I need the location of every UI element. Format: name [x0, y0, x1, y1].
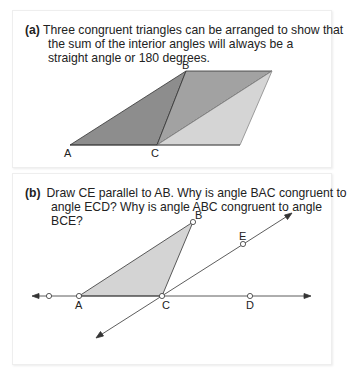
triangle-abc-b — [79, 222, 193, 296]
panel-a-triangles — [70, 71, 272, 145]
label-e-panel-b: E — [239, 230, 246, 242]
point-c — [159, 293, 164, 298]
label-c-panel-b: C — [162, 299, 170, 311]
point-e — [240, 241, 245, 246]
point-a — [76, 293, 81, 298]
label-a-panel-a: A — [64, 147, 72, 159]
arrow-down-left-icon — [96, 332, 104, 339]
point-d — [247, 293, 252, 298]
arrow-left-icon — [32, 294, 39, 299]
label-b-panel-b: B — [195, 209, 202, 221]
panel-b-figure — [32, 213, 311, 338]
label-b-panel-a: B — [182, 59, 189, 71]
arrow-up-right-icon — [285, 213, 293, 220]
label-a-panel-b: A — [75, 299, 83, 311]
label-c-panel-a: C — [151, 147, 159, 159]
arrow-right-icon — [304, 294, 311, 299]
point-left — [46, 293, 51, 298]
label-d-panel-b: D — [246, 299, 254, 311]
